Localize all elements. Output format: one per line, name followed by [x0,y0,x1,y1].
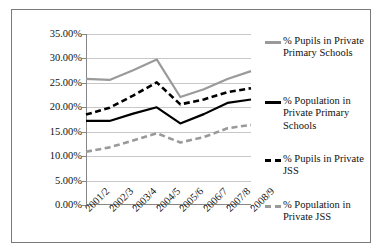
y-axis-tick-label: 30.00% [50,53,82,64]
y-axis-tick-label: 0.00% [55,200,82,211]
legend-item-label: % Population inPrivate PrimarySchools [283,95,351,132]
y-axis-label-group: 0.00%5.00%10.00%15.00%20.00%25.00%30.00%… [28,34,82,205]
y-axis-tick-label: 10.00% [50,151,82,162]
legend-item[interactable]: % Population inPrivate PrimarySchools [265,95,381,132]
legend-item[interactable]: % Population inPrivate JSS [265,199,381,224]
dashed-gray-line-icon [265,201,281,212]
plot-area [86,34,251,205]
series-layer [86,34,251,206]
y-axis-tick-label: 25.00% [50,78,82,89]
legend-item[interactable]: % Pupils in PrivatePrimary Schools [265,35,381,60]
series-line [86,99,251,123]
y-axis-tick-label: 35.00% [50,29,82,40]
y-axis-tick-label: 20.00% [50,102,82,113]
solid-gray-line-icon [265,37,281,48]
legend-item-label: % Pupils in PrivateJSS [283,153,364,178]
chart-legend: % Pupils in PrivatePrimary Schools% Popu… [265,23,381,239]
y-axis-tick-label: 15.00% [50,127,82,138]
chart-frame: 0.00%5.00%10.00%15.00%20.00%25.00%30.00%… [11,9,371,243]
y-axis-tick-label: 5.00% [55,176,82,187]
legend-item-label: % Population inPrivate JSS [283,199,351,224]
x-axis-label-group: 2001/22002/32003/42004/52005/62006/72007… [86,206,266,252]
series-line [86,82,251,114]
series-line [86,59,251,97]
series-line [86,125,251,152]
solid-black-line-icon [265,97,281,108]
legend-item[interactable]: % Pupils in PrivateJSS [265,153,381,178]
chart-container: 0.00%5.00%10.00%15.00%20.00%25.00%30.00%… [0,0,383,252]
dashed-black-line-icon [265,155,281,166]
legend-item-label: % Pupils in PrivatePrimary Schools [283,35,364,60]
